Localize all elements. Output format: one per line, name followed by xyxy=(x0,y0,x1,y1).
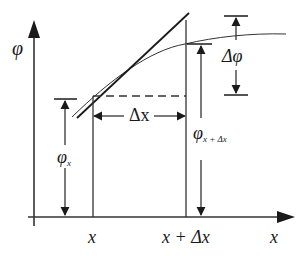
delta-phi-label: Δφ xyxy=(222,47,243,65)
x-dx-tick-label: x + Δx xyxy=(162,228,210,246)
x-axis xyxy=(28,211,295,223)
phi-x-sub: x xyxy=(67,158,71,168)
x-axis-label: x xyxy=(270,228,278,246)
delta-x-label: Δx xyxy=(129,106,150,124)
tangent-line xyxy=(77,13,189,118)
phi-x-dx-sub: x + Δx xyxy=(203,134,227,144)
diagram-canvas xyxy=(0,0,305,256)
y-axis xyxy=(28,20,40,226)
phi-x-dx-base: φ xyxy=(193,123,203,143)
x-axis-arrow-icon xyxy=(277,211,295,223)
y-axis-arrow-icon xyxy=(28,20,40,38)
phi-x-dx-label: φx + Δx xyxy=(193,124,227,144)
phi-x-label: φx xyxy=(57,148,71,168)
phi-x-base: φ xyxy=(57,147,67,167)
x-tick-label: x xyxy=(88,228,96,246)
delta-x-text: Δx xyxy=(129,105,150,125)
y-axis-label: φ xyxy=(12,38,23,58)
phi-curve xyxy=(72,34,286,117)
